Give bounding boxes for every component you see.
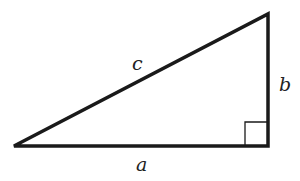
label-hypotenuse: c bbox=[132, 52, 143, 74]
right-angle-marker bbox=[245, 122, 268, 146]
label-leg-b: b bbox=[279, 73, 291, 95]
label-leg-a: a bbox=[136, 153, 147, 175]
right-triangle-diagram: c b a bbox=[0, 0, 300, 181]
triangle-shape bbox=[14, 14, 268, 146]
